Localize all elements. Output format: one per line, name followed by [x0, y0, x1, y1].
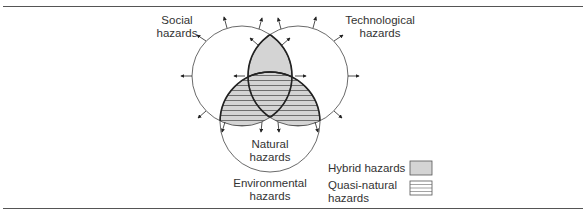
legend-quasi-natural-label: Quasi-naturalhazards: [328, 179, 397, 205]
technological-hazards-label: Technologicalhazards: [340, 14, 420, 40]
social-hazards-label: Socialhazards: [142, 14, 212, 40]
natural-hazards-label: Naturalhazards: [240, 138, 300, 164]
legend-swatch-hybrid: [410, 161, 432, 175]
environmental-hazards-label: Environmentalhazards: [225, 177, 315, 203]
legend-hybrid-label: Hybrid hazards: [328, 162, 405, 175]
